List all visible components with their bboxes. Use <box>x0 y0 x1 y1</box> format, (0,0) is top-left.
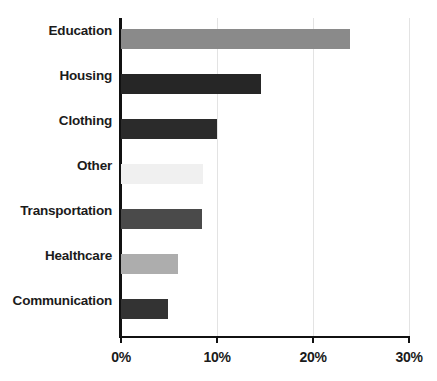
bar-clothing[interactable] <box>121 119 217 139</box>
bar-row <box>121 247 409 281</box>
category-axis-top-cap <box>119 18 122 20</box>
bar-healthcare[interactable] <box>121 254 178 274</box>
value-tick-label-10: 10% <box>203 349 230 365</box>
bar-transportation[interactable] <box>121 209 202 229</box>
bar-row <box>121 157 409 191</box>
bar-communication[interactable] <box>121 299 168 319</box>
bar-chart: EducationHousingClothingOtherTransportat… <box>0 0 437 381</box>
category-label-housing: Housing <box>0 68 112 83</box>
category-label-communication: Communication <box>0 293 112 308</box>
category-label-healthcare: Healthcare <box>0 248 112 263</box>
category-label-other: Other <box>0 158 112 173</box>
value-tick-label-0: 0% <box>111 349 131 365</box>
bar-row <box>121 292 409 326</box>
value-tick-mark <box>216 336 218 343</box>
value-tick-mark <box>120 336 122 343</box>
value-tick-mark <box>312 336 314 343</box>
gridline <box>409 18 410 337</box>
value-tick-mark <box>408 336 410 343</box>
bar-row <box>121 112 409 146</box>
bar-row <box>121 67 409 101</box>
bar-row <box>121 22 409 56</box>
category-label-education: Education <box>0 23 112 38</box>
category-label-clothing: Clothing <box>0 113 112 128</box>
bar-row <box>121 202 409 236</box>
bar-other[interactable] <box>121 164 203 184</box>
category-label-transportation: Transportation <box>0 203 112 218</box>
value-tick-label-20: 20% <box>299 349 326 365</box>
bar-housing[interactable] <box>121 74 261 94</box>
bar-education[interactable] <box>121 29 350 49</box>
value-tick-label-30: 30% <box>395 349 422 365</box>
plot-area <box>121 18 409 337</box>
